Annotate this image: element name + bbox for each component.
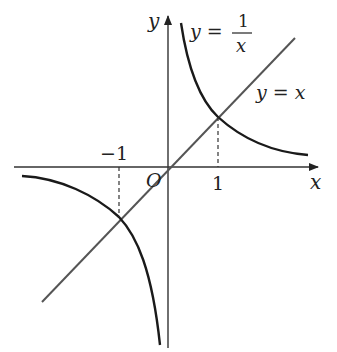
y-axis-label: y bbox=[147, 9, 160, 33]
hyperbola-label-num: 1 bbox=[238, 11, 249, 31]
tick-one: 1 bbox=[212, 172, 224, 194]
hyperbola-label-den: x bbox=[236, 35, 246, 56]
hyperbola-label-lhs: y = bbox=[189, 20, 223, 42]
line-label: y = x bbox=[255, 81, 306, 103]
tick-neg-one: −1 bbox=[100, 142, 128, 164]
x-axis-label: x bbox=[310, 170, 321, 194]
origin-label: O bbox=[146, 169, 162, 191]
diagram: y x O −1 1 y = 1 x y = x bbox=[0, 0, 337, 352]
